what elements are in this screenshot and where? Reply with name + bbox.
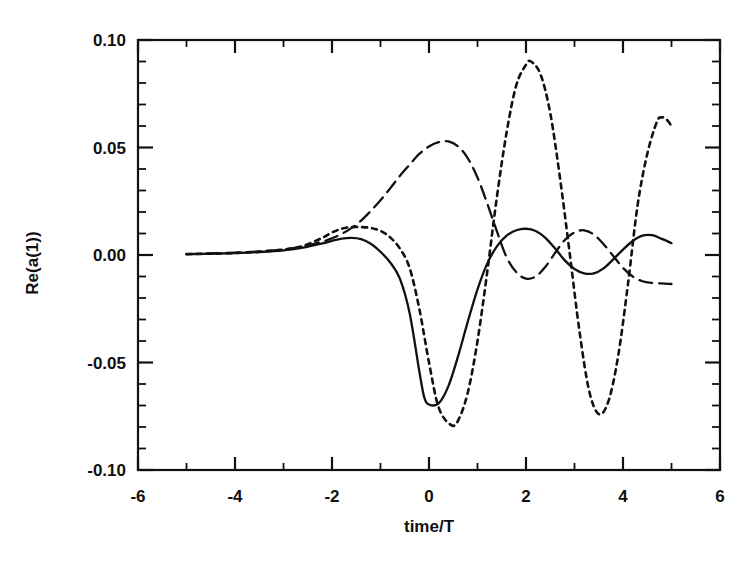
y-tick-label: -0.10 bbox=[87, 461, 126, 480]
line-chart: -6-4-20246 -0.10-0.050.000.050.10 time/T… bbox=[0, 0, 753, 578]
x-tick-label: 0 bbox=[424, 487, 433, 506]
x-tick-label: 2 bbox=[521, 487, 530, 506]
x-tick-label: 6 bbox=[715, 487, 724, 506]
y-tick-label: -0.05 bbox=[87, 354, 126, 373]
x-tick-label: -6 bbox=[130, 487, 145, 506]
y-axis-title: Re(a(1)) bbox=[23, 231, 42, 294]
y-tick-label: 0.10 bbox=[93, 31, 126, 50]
x-axis-title: time/T bbox=[404, 517, 455, 536]
y-tick-label: 0.00 bbox=[93, 246, 126, 265]
y-tick-label: 0.05 bbox=[93, 139, 126, 158]
x-tick-label: -2 bbox=[324, 487, 339, 506]
x-tick-label: 4 bbox=[618, 487, 628, 506]
chart-background bbox=[0, 0, 753, 578]
x-tick-label: -4 bbox=[227, 487, 243, 506]
figure-container: -6-4-20246 -0.10-0.050.000.050.10 time/T… bbox=[0, 0, 753, 578]
